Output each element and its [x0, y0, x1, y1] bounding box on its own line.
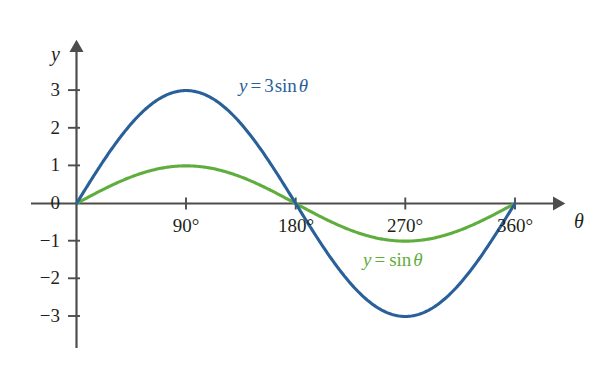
- curve-label-blue-op: =: [247, 75, 264, 96]
- x-tick-label-90: 90°: [150, 216, 222, 235]
- y-axis-label: y: [51, 44, 60, 64]
- plot-canvas: [0, 0, 606, 373]
- y-tick-label-2: 2: [34, 118, 60, 137]
- curve-label-blue-argument: θ: [297, 75, 308, 96]
- curve-label-green-function: sin: [388, 249, 411, 270]
- x-tick-label-180: 180°: [256, 216, 336, 235]
- curve-label-green-argument: θ: [411, 249, 422, 270]
- y-tick-label-1: 1: [34, 155, 60, 174]
- curve-label-blue: y=3sinθ: [239, 76, 308, 95]
- x-tick-label-270: 270°: [365, 216, 445, 235]
- sine-graph-figure: 3 2 1 0 −1 −2 −3 90° 180° 270° 360° y θ …: [0, 0, 606, 373]
- x-tick-label-360: 360°: [475, 216, 555, 235]
- y-tick-label-neg1: −1: [26, 231, 60, 250]
- y-tick-label-neg3: −3: [26, 306, 60, 325]
- y-tick-label-3: 3: [34, 80, 60, 99]
- y-tick-label-0: 0: [34, 193, 60, 212]
- curve-label-blue-coefficient: 3: [264, 75, 274, 96]
- curve-label-green-op: =: [371, 249, 388, 270]
- y-tick-label-neg2: −2: [26, 268, 60, 287]
- curve-label-green: y=sinθ: [363, 250, 423, 269]
- curve-label-blue-function: sin: [274, 75, 297, 96]
- x-axis-label: θ: [574, 211, 584, 231]
